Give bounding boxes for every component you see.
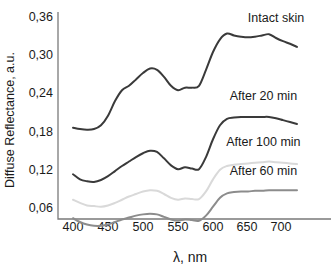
y-axis-title: Diffuse Reflectance, a.u. <box>3 52 17 188</box>
y-axis-tick-labels: 0,36 0,30 0,24 0,18 0,12 0,06 <box>29 10 53 215</box>
y-tick-label: 0,30 <box>29 48 53 62</box>
diffuse-reflectance-line-chart: 0,36 0,30 0,24 0,18 0,12 0,06 400 450 50… <box>0 0 335 275</box>
y-tick-label: 0,24 <box>29 86 53 100</box>
y-tick-label: 0,36 <box>29 10 53 24</box>
series-label-after-20-min: After 20 min <box>230 89 297 103</box>
x-tick-label: 650 <box>237 220 258 234</box>
x-tick-label: 550 <box>168 220 189 234</box>
y-tick-label: 0,12 <box>29 163 53 177</box>
x-axis-title: λ, nm <box>173 249 207 265</box>
series-label-intact-skin: Intact skin <box>248 11 304 25</box>
y-tick-label: 0,18 <box>29 125 53 139</box>
x-tick-label: 500 <box>133 220 154 234</box>
x-axis-tick-labels: 400 450 500 550 600 650 700 <box>63 220 292 234</box>
series-label-after-100-min: After 100 min <box>226 135 300 149</box>
series-label-after-60-min: After 60 min <box>230 164 297 178</box>
chart-curves <box>73 33 297 226</box>
chart-figure: 0,36 0,30 0,24 0,18 0,12 0,06 400 450 50… <box>0 0 335 275</box>
y-tick-label: 0,06 <box>29 201 53 215</box>
x-tick-label: 600 <box>203 220 224 234</box>
series-curve-intact-skin <box>73 33 297 129</box>
x-tick-label: 700 <box>271 220 292 234</box>
